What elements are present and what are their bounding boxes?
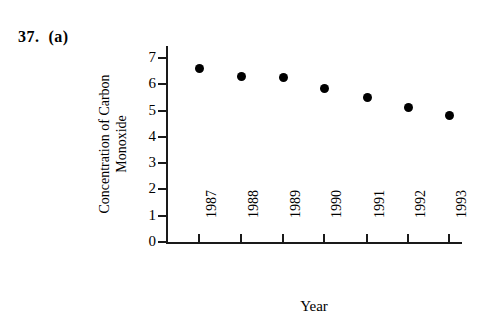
x-axis-tick-label: 1993 <box>455 190 469 250</box>
x-axis-tick-label: 1988 <box>247 190 261 250</box>
x-axis-tick <box>448 234 450 242</box>
y-axis-tick <box>158 188 166 190</box>
figure-container: 37. (a) 01234567 19871988198919901991199… <box>0 0 480 321</box>
x-axis-tick <box>282 234 284 242</box>
y-axis-tick-label-wrap: 7 <box>138 50 156 65</box>
scatter-plot: 01234567 1987198819891990199119921993 Co… <box>0 0 480 321</box>
y-axis-tick-label-wrap: 1 <box>138 208 156 223</box>
x-axis-tick-label: 1990 <box>330 190 344 250</box>
data-point <box>404 103 413 112</box>
data-point <box>363 93 372 102</box>
y-axis-tick <box>158 110 166 112</box>
y-axis-tick-label: 1 <box>140 208 156 223</box>
data-point <box>320 84 329 93</box>
data-point <box>195 64 204 73</box>
x-axis-tick-label: 1989 <box>289 190 303 250</box>
y-axis-title-line-1: Concentration of Carbon <box>96 44 113 244</box>
x-axis-tick-label: 1992 <box>414 190 428 250</box>
x-axis-tick-label: 1987 <box>205 190 219 250</box>
x-axis-tick <box>198 234 200 242</box>
y-axis-tick-label-wrap: 6 <box>138 76 156 91</box>
y-axis-tick-label: 0 <box>140 234 156 249</box>
y-axis-tick-label-wrap: 2 <box>138 181 156 196</box>
x-axis-title: Year <box>166 298 462 314</box>
y-axis-tick <box>158 57 166 59</box>
x-axis-tick <box>323 234 325 242</box>
x-axis-tick <box>240 234 242 242</box>
data-point <box>445 111 454 120</box>
data-point <box>279 73 288 82</box>
y-axis-tick-label-wrap: 5 <box>138 103 156 118</box>
y-axis-tick-label: 5 <box>140 103 156 118</box>
y-axis-tick-label-wrap: 0 <box>138 234 156 249</box>
y-axis-tick <box>158 241 166 243</box>
y-axis-tick-label: 4 <box>140 129 156 144</box>
y-axis-tick-label: 3 <box>140 155 156 170</box>
x-axis-tick <box>366 234 368 242</box>
y-axis-line <box>166 46 168 244</box>
y-axis-title-line-2: Monoxide <box>113 44 130 244</box>
data-point <box>237 72 246 81</box>
x-axis-tick-label: 1991 <box>373 190 387 250</box>
y-axis-tick <box>158 215 166 217</box>
y-axis-tick-label: 6 <box>140 76 156 91</box>
y-axis-tick-label-wrap: 4 <box>138 129 156 144</box>
y-axis-tick-label-wrap: 3 <box>138 155 156 170</box>
y-axis-tick <box>158 83 166 85</box>
y-axis-tick <box>158 136 166 138</box>
y-axis-title: Concentration of Carbon Monoxide <box>96 44 140 244</box>
y-axis-tick-label: 7 <box>140 50 156 65</box>
y-axis-tick-label: 2 <box>140 181 156 196</box>
x-axis-tick <box>407 234 409 242</box>
y-axis-tick <box>158 162 166 164</box>
